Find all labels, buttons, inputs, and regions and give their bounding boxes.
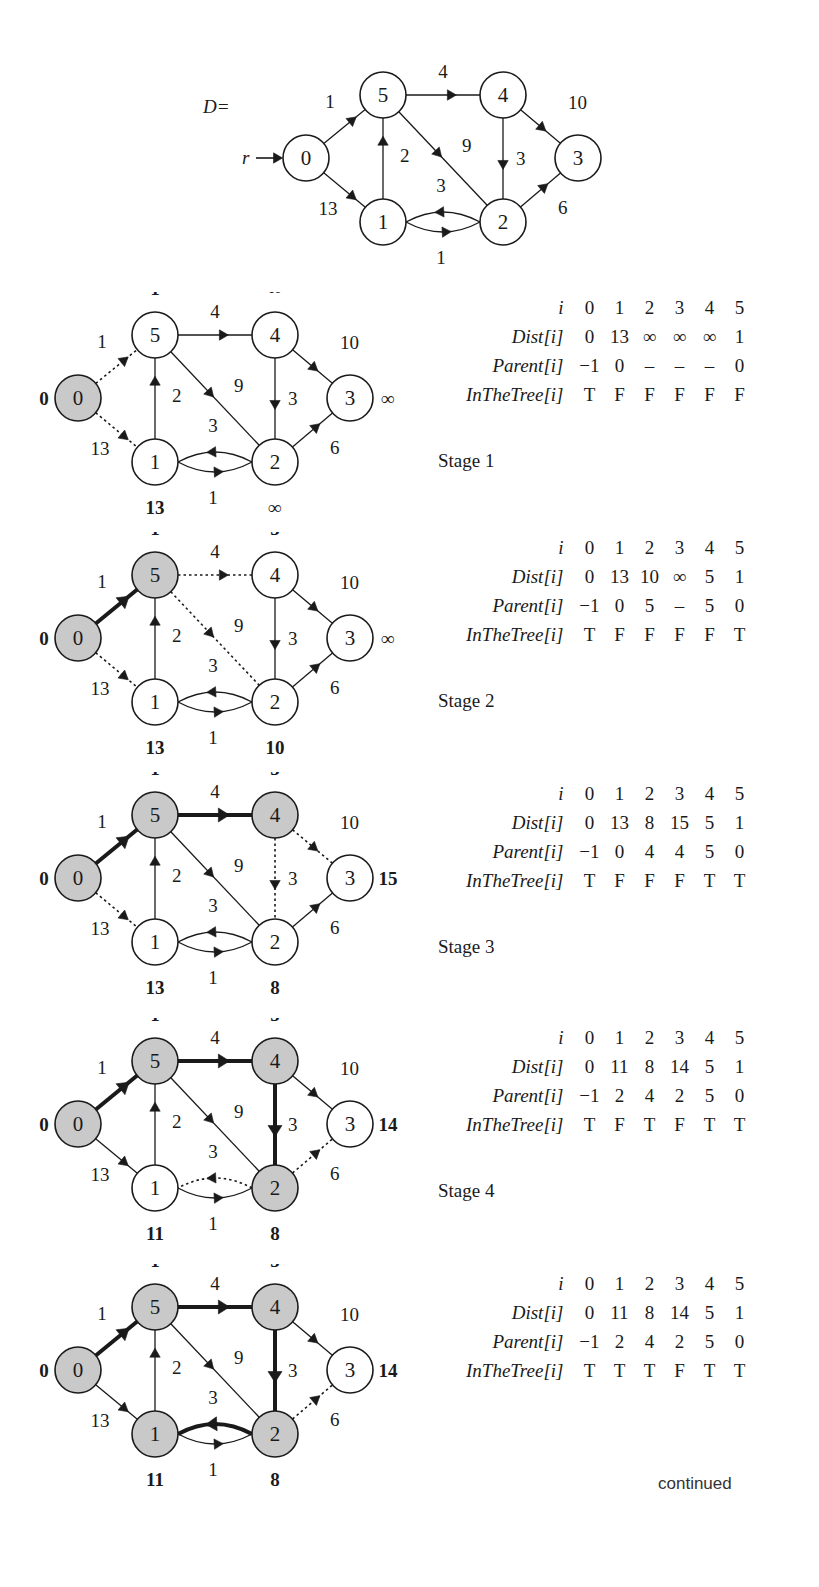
node-label: 1	[150, 1176, 161, 1200]
table-cell: 4	[694, 296, 724, 325]
edge-weight-label: 1	[208, 1213, 218, 1234]
node-dist-label: ∞	[381, 628, 395, 649]
table-row-label: Dist[i]	[466, 325, 574, 354]
table-row-label: Parent[i]	[466, 1084, 574, 1113]
table-row: i012345	[466, 536, 754, 565]
node-dist-label: 0	[39, 1114, 49, 1135]
graph-node: 3	[327, 615, 373, 661]
edge-weight-label: 10	[568, 92, 587, 113]
label-layer: 113249103631	[319, 61, 588, 268]
graph-node: 3	[327, 1101, 373, 1147]
node-label: 4	[270, 1295, 281, 1319]
table-row: Dist[i]01310∞51	[466, 565, 754, 594]
node-label: 2	[270, 1176, 281, 1200]
edge-weight-label: 10	[340, 1304, 359, 1325]
table-row-label: InTheTree[i]	[466, 383, 574, 412]
table-cell: T	[694, 1113, 724, 1142]
node-dist-label: 0	[39, 628, 49, 649]
table-cell: 5	[634, 594, 664, 623]
node-dist-label: 8	[270, 977, 280, 998]
graph-canvas: 012345113249103631013∞∞∞1	[0, 292, 430, 542]
table-cell: 5	[694, 565, 724, 594]
table-cell: F	[664, 869, 694, 898]
node-label: 2	[270, 690, 281, 714]
table-row-label: i	[466, 536, 574, 565]
edge-weight-label: 3	[288, 1114, 298, 1135]
edge-weight-label: 10	[340, 332, 359, 353]
node-dist-label: 0	[39, 1360, 49, 1381]
table-row: Dist[i]013∞∞∞1	[466, 325, 754, 354]
table-cell: F	[634, 869, 664, 898]
table-row-label: Dist[i]	[466, 565, 574, 594]
table-cell: 3	[664, 782, 694, 811]
table-stage-1: i012345Dist[i]013∞∞∞1Parent[i]−10–––0InT…	[466, 296, 754, 412]
node-dist-label: 0	[39, 388, 49, 409]
node-label: 5	[150, 1049, 161, 1073]
table-row-label: InTheTree[i]	[466, 623, 574, 652]
table-stage-3: i012345Dist[i]01381551Parent[i]−104450In…	[466, 782, 754, 898]
graph-node: 4	[252, 1038, 298, 1084]
table-cell: 0	[574, 1272, 604, 1301]
node-label: 1	[150, 690, 161, 714]
node-dist-label: ∞	[381, 388, 395, 409]
graph-stage-1: 012345113249103631013∞∞∞1	[0, 292, 430, 542]
node-label: 0	[73, 386, 84, 410]
graph-node: 2	[252, 679, 298, 725]
table-cell: T	[724, 1359, 754, 1388]
table-row: i012345	[466, 782, 754, 811]
table-cell: –	[694, 354, 724, 383]
table-cell: T	[574, 869, 604, 898]
table-row: InTheTree[i]TFFFFT	[466, 623, 754, 652]
graph-node: 1	[132, 919, 178, 965]
stage-table: i012345Dist[i]013∞∞∞1Parent[i]−10–––0InT…	[466, 296, 754, 412]
edge-weight-label: 9	[234, 375, 244, 396]
table-cell: ∞	[694, 325, 724, 354]
table-cell: F	[664, 623, 694, 652]
graph-canvas: 01234511324910363101310∞51	[0, 532, 430, 782]
table-cell: 2	[604, 1084, 634, 1113]
graph-node: 2	[252, 1411, 298, 1457]
graph-node: 3	[555, 135, 601, 181]
table-cell: F	[604, 383, 634, 412]
table-row: InTheTree[i]TFFFTT	[466, 869, 754, 898]
table-cell: 2	[604, 1330, 634, 1359]
edge-weight-label: 10	[340, 812, 359, 833]
edge-weight-label: 3	[208, 895, 218, 916]
edge-weight-label: 2	[172, 385, 182, 406]
graph-node: 1	[132, 1411, 178, 1457]
table-cell: T	[694, 1359, 724, 1388]
edge-weight-label: 13	[91, 1164, 110, 1185]
graph-node: 2	[252, 919, 298, 965]
table-cell: 4	[634, 1084, 664, 1113]
table-cell: F	[604, 623, 634, 652]
table-row: InTheTree[i]TTTFTT	[466, 1359, 754, 1388]
node-label: 2	[270, 930, 281, 954]
graph-node: 0	[55, 615, 101, 661]
table-cell: 5	[724, 536, 754, 565]
edge-weight-label: 13	[319, 198, 338, 219]
edge-weight-label: 2	[400, 145, 410, 166]
table-cell: T	[574, 1113, 604, 1142]
table-cell: T	[574, 383, 604, 412]
table-cell: 5	[724, 296, 754, 325]
table-row: Parent[i]−124250	[466, 1330, 754, 1359]
table-cell: 2	[634, 1026, 664, 1055]
graph-node: 5	[360, 72, 406, 118]
node-label: 5	[150, 323, 161, 347]
graph-stage-3: 01234511324910363101381551	[0, 772, 430, 1022]
table-cell: 8	[634, 1301, 664, 1330]
node-dist-label: 1	[150, 532, 160, 539]
edge-weight-label: 1	[97, 1057, 107, 1078]
node-label: 1	[150, 450, 161, 474]
graph-node: 4	[252, 312, 298, 358]
stage-table: i012345Dist[i]01381551Parent[i]−104450In…	[466, 782, 754, 898]
table-cell: T	[634, 1113, 664, 1142]
node-label: 4	[270, 563, 281, 587]
table-cell: 5	[694, 1084, 724, 1113]
table-cell: 15	[664, 811, 694, 840]
table-cell: 0	[574, 1301, 604, 1330]
node-dist-label: 15	[379, 868, 398, 889]
edge-weight-label: 1	[97, 331, 107, 352]
node-dist-label: 5	[270, 1018, 280, 1025]
graph-d-label: D=	[203, 96, 230, 118]
